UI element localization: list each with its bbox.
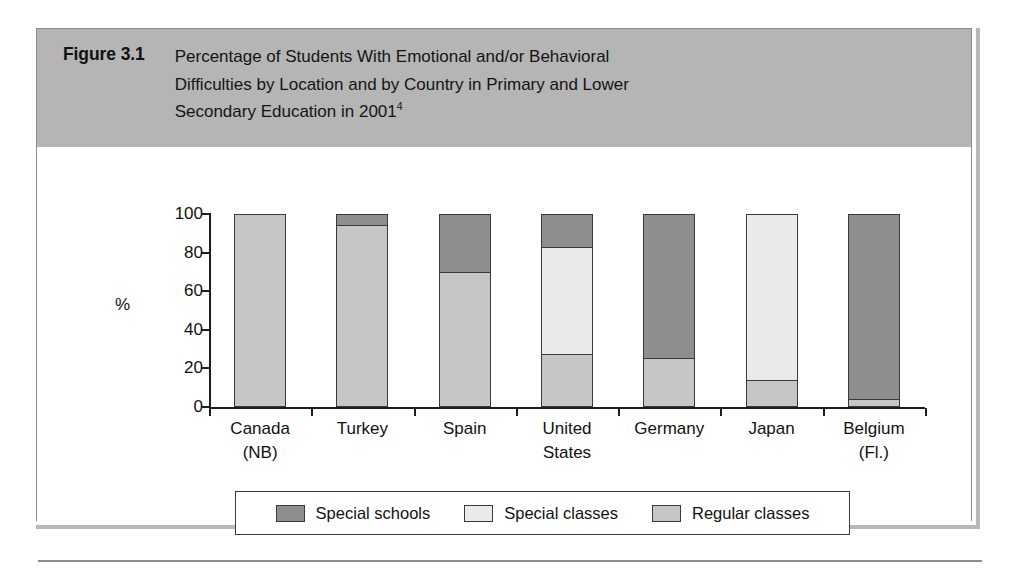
figure-title-line-1: Percentage of Students With Emotional an… bbox=[175, 47, 610, 66]
bar-column bbox=[234, 214, 286, 407]
bar-segment-regular-classes bbox=[235, 215, 285, 406]
x-axis-category-label: Belgium(Fl.) bbox=[814, 417, 934, 465]
stacked-bar bbox=[336, 214, 388, 407]
y-axis-tick bbox=[202, 252, 209, 254]
legend-item: Regular classes bbox=[652, 504, 809, 523]
legend-swatch-icon bbox=[652, 505, 681, 522]
bar-segment-regular-classes bbox=[337, 225, 387, 407]
x-axis-line bbox=[209, 407, 925, 409]
bar-segment-special-classes bbox=[542, 247, 592, 354]
y-tick-label-column: 020406080100 bbox=[145, 147, 203, 521]
x-axis-tick bbox=[823, 408, 825, 416]
y-axis-tick-label: 20 bbox=[184, 358, 203, 378]
y-axis-tick bbox=[202, 290, 209, 292]
y-axis-tick bbox=[202, 367, 209, 369]
stacked-bar bbox=[848, 214, 900, 407]
y-axis-tick-label: 40 bbox=[184, 320, 203, 340]
figure-title-line-2: Difficulties by Location and by Country … bbox=[175, 75, 629, 94]
stacked-bar bbox=[541, 214, 593, 407]
bars-layer bbox=[209, 214, 925, 407]
stacked-bar bbox=[234, 214, 286, 407]
legend-item: Special schools bbox=[276, 504, 431, 523]
y-axis-tick bbox=[202, 329, 209, 331]
figure-header-band: Figure 3.1 Percentage of Students With E… bbox=[37, 29, 971, 147]
bar-column bbox=[439, 214, 491, 407]
chart-legend: Special schoolsSpecial classesRegular cl… bbox=[235, 491, 850, 535]
x-axis-label-line-1: Belgium bbox=[814, 417, 934, 441]
bar-segment-special-schools bbox=[849, 215, 899, 399]
stacked-bar bbox=[439, 214, 491, 407]
y-axis-tick-label: 80 bbox=[184, 243, 203, 263]
x-axis-tick bbox=[209, 408, 211, 416]
chart-plot-zone: % 020406080100 Canada(NB)TurkeySpainUnit… bbox=[37, 147, 971, 521]
bar-segment-regular-classes bbox=[440, 272, 490, 406]
y-axis-tick-label: 60 bbox=[184, 281, 203, 301]
figure-box: Figure 3.1 Percentage of Students With E… bbox=[36, 28, 980, 529]
y-axis-title: % bbox=[115, 295, 130, 315]
figure-title: Percentage of Students With Emotional an… bbox=[175, 43, 629, 126]
legend-label: Regular classes bbox=[692, 504, 809, 523]
y-axis-tick bbox=[202, 213, 209, 215]
bar-column bbox=[848, 214, 900, 407]
legend-label: Special classes bbox=[504, 504, 618, 523]
x-axis-tick bbox=[414, 408, 416, 416]
x-axis-label-layer: Canada(NB)TurkeySpainUnitedStatesGermany… bbox=[209, 417, 925, 481]
bar-segment-special-schools bbox=[644, 215, 694, 358]
figure-number-label: Figure 3.1 bbox=[63, 43, 145, 65]
bar-segment-special-schools bbox=[440, 215, 490, 272]
page-bottom-rule bbox=[38, 560, 982, 562]
x-axis-tick bbox=[925, 408, 927, 416]
bar-column bbox=[643, 214, 695, 407]
x-axis-tick bbox=[516, 408, 518, 416]
x-axis-label-line-2: States bbox=[507, 441, 627, 465]
bar-segment-special-schools bbox=[542, 215, 592, 247]
bar-column bbox=[541, 214, 593, 407]
bar-segment-special-classes bbox=[747, 215, 797, 380]
stacked-bar bbox=[746, 214, 798, 407]
x-axis-tick bbox=[311, 408, 313, 416]
legend-label: Special schools bbox=[316, 504, 431, 523]
stacked-bar bbox=[643, 214, 695, 407]
bar-segment-regular-classes bbox=[542, 354, 592, 406]
bar-segment-special-schools bbox=[337, 215, 387, 225]
chart-axes bbox=[209, 214, 925, 407]
bar-segment-regular-classes bbox=[644, 358, 694, 407]
figure-title-line-3: Secondary Education in 2001 bbox=[175, 102, 397, 121]
bar-column bbox=[746, 214, 798, 407]
bar-segment-regular-classes bbox=[747, 380, 797, 406]
legend-item: Special classes bbox=[464, 504, 618, 523]
figure-inner-frame: Figure 3.1 Percentage of Students With E… bbox=[36, 28, 972, 521]
figure-title-footnote: 4 bbox=[397, 100, 403, 112]
y-axis-tick bbox=[202, 406, 209, 408]
legend-swatch-icon bbox=[464, 505, 493, 522]
y-axis-tick-label: 100 bbox=[175, 204, 203, 224]
x-axis-tick bbox=[720, 408, 722, 416]
bar-column bbox=[336, 214, 388, 407]
x-axis-tick bbox=[618, 408, 620, 416]
legend-swatch-icon bbox=[276, 505, 305, 522]
x-axis-label-line-2: (Fl.) bbox=[814, 441, 934, 465]
x-axis-label-line-2: (NB) bbox=[200, 441, 320, 465]
bar-segment-regular-classes bbox=[849, 399, 899, 406]
